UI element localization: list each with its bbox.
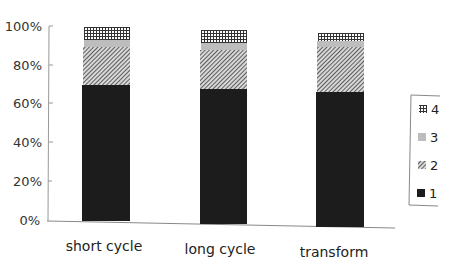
legend-swatch-2 — [418, 161, 426, 169]
segment-1 — [316, 92, 364, 227]
legend-label-3: 3 — [430, 130, 438, 145]
legend-label-2: 2 — [430, 158, 438, 173]
bar-short-cycle — [82, 27, 130, 221]
x-label-transform: transform — [300, 244, 369, 260]
legend-label-4: 4 — [431, 102, 439, 117]
segment-1 — [82, 85, 130, 221]
y-tick-20: 20% — [13, 174, 42, 189]
segment-3 — [317, 41, 364, 47]
segment-3 — [84, 40, 130, 47]
segment-4 — [318, 33, 364, 41]
segment-1 — [200, 89, 247, 224]
segment-2 — [200, 50, 247, 89]
legend-swatch-4 — [419, 105, 427, 113]
x-label-short-cycle: short cycle — [66, 238, 143, 254]
y-axis: 100% 80% 60% 40% 20% 0% — [5, 19, 53, 228]
y-tick-0: 0% — [19, 213, 40, 228]
bar-long-cycle — [200, 30, 247, 224]
legend-swatch-1 — [417, 189, 425, 197]
y-tick-40: 40% — [13, 135, 42, 150]
y-tick-100: 100% — [5, 19, 42, 34]
segment-2 — [83, 47, 130, 85]
legend-label-1: 1 — [429, 186, 437, 201]
legend-swatch-3 — [418, 133, 426, 141]
bar-transform — [316, 33, 364, 227]
legend: 4 3 2 1 — [409, 95, 440, 206]
y-tick-80: 80% — [13, 58, 42, 73]
x-label-long-cycle: long cycle — [185, 241, 256, 257]
segment-4 — [84, 27, 130, 40]
stacked-bar-chart: 100% 80% 60% 40% 20% 0% short cycle long… — [0, 0, 451, 274]
segment-4 — [201, 30, 247, 43]
y-tick-60: 60% — [13, 96, 42, 111]
segment-3 — [201, 43, 247, 50]
segment-2 — [317, 47, 364, 92]
